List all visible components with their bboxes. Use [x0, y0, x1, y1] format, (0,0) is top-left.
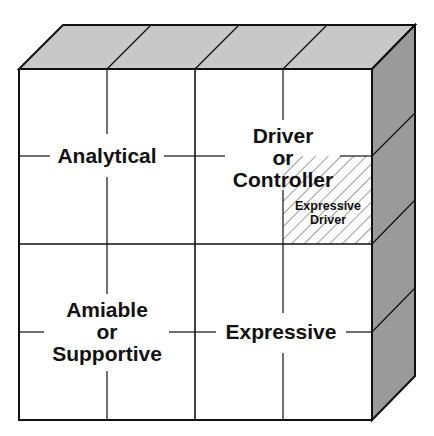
cube-side-face	[372, 25, 415, 420]
label-analytical: Analytical	[57, 144, 156, 167]
svg-text:Supportive: Supportive	[52, 342, 162, 365]
label-expressive: Expressive	[226, 320, 337, 343]
svg-text:or: or	[273, 146, 294, 169]
svg-text:Driver: Driver	[310, 213, 346, 227]
svg-text:Analytical: Analytical	[57, 144, 156, 167]
cube-front-face	[19, 69, 372, 420]
svg-text:Expressive: Expressive	[295, 199, 361, 213]
svg-text:or: or	[97, 320, 118, 343]
svg-text:Driver: Driver	[253, 124, 314, 147]
svg-text:Expressive: Expressive	[226, 320, 337, 343]
social-style-cube: Analytical Driver or Controller Expressi…	[0, 0, 434, 436]
svg-text:Controller: Controller	[233, 168, 333, 191]
svg-text:Amiable: Amiable	[66, 298, 148, 321]
cube-top-face	[19, 25, 415, 69]
